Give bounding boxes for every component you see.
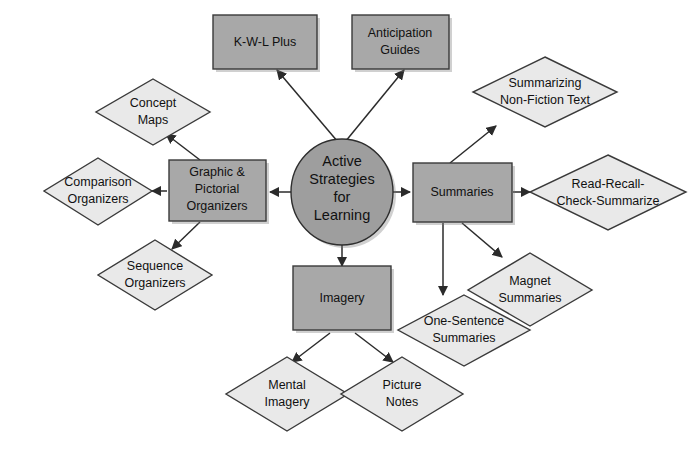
node-concept-maps-label-line-1: Maps (138, 113, 169, 127)
strategies-concept-map: K-W-L Plus Anticipation Guides Concept M… (0, 0, 700, 460)
edge-graphic-to-sequence (172, 222, 200, 249)
edge-summaries-to-summarizing-nonfiction (450, 126, 496, 163)
node-sequence-shape[interactable] (98, 240, 212, 310)
node-concept-maps[interactable]: Concept Maps (96, 79, 210, 145)
node-center-label-line-3: Learning (314, 207, 370, 223)
node-magnet-label-line-1: Summaries (498, 291, 561, 305)
edge-imagery-to-mental-imagery (292, 333, 330, 362)
node-graphic-label-line-1: Pictorial (195, 182, 239, 196)
diagram-canvas: K-W-L Plus Anticipation Guides Concept M… (0, 0, 700, 460)
edge-center-to-kwl (277, 70, 338, 142)
node-read-recall-shape[interactable] (530, 155, 686, 230)
node-sequence-label-line-1: Organizers (124, 276, 185, 290)
node-picture-notes-label-line-1: Notes (386, 395, 419, 409)
node-center-label-line-0: Active (322, 153, 362, 169)
node-picture-notes[interactable]: Picture Notes (341, 357, 463, 431)
node-mental-imagery-label-line-0: Mental (268, 378, 306, 392)
node-summarizing-nonfiction-shape[interactable] (473, 57, 617, 127)
node-graphic-label-line-2: Organizers (186, 199, 247, 213)
node-anticipation-label-line-1: Guides (380, 43, 420, 57)
edge-graphic-to-concept-maps (166, 134, 200, 160)
node-center-label-line-1: Strategies (309, 171, 374, 187)
node-mental-imagery[interactable]: Mental Imagery (226, 357, 348, 431)
edge-imagery-to-picture-notes (355, 333, 393, 362)
node-one-sentence-label-line-0: One-Sentence (424, 314, 505, 328)
node-concept-maps-shape[interactable] (96, 79, 210, 145)
node-graphic[interactable]: Graphic & Pictorial Organizers (169, 160, 266, 221)
node-read-recall[interactable]: Read-Recall- Check-Summarize (530, 155, 686, 230)
node-sequence[interactable]: Sequence Organizers (98, 240, 212, 310)
node-comparison-label-line-1: Organizers (67, 192, 128, 206)
node-anticipation-label-line-0: Anticipation (368, 26, 433, 40)
node-summarizing-nonfiction[interactable]: Summarizing Non-Fiction Text (473, 57, 617, 127)
node-anticipation-shape[interactable] (352, 15, 449, 69)
edge-center-to-anticipation (345, 70, 404, 142)
node-read-recall-label-line-0: Read-Recall- (572, 177, 645, 191)
node-summaries[interactable]: Summaries (413, 163, 512, 222)
node-imagery-label-line-0: Imagery (319, 291, 365, 305)
node-magnet-label-line-0: Magnet (509, 274, 551, 288)
node-center-label-line-2: for (334, 189, 351, 205)
node-center[interactable]: Active Strategies for Learning (291, 139, 393, 245)
node-comparison-label-line-0: Comparison (64, 175, 131, 189)
node-read-recall-label-line-1: Check-Summarize (557, 194, 660, 208)
node-summarizing-nonfiction-label-line-0: Summarizing (509, 76, 582, 90)
node-one-sentence-label-line-1: Summaries (432, 331, 495, 345)
node-summarizing-nonfiction-label-line-1: Non-Fiction Text (500, 93, 591, 107)
node-anticipation[interactable]: Anticipation Guides (352, 15, 449, 69)
node-sequence-label-line-0: Sequence (127, 259, 183, 273)
node-mental-imagery-shape[interactable] (226, 357, 348, 431)
node-kwl[interactable]: K-W-L Plus (213, 15, 317, 69)
node-comparison[interactable]: Comparison Organizers (44, 158, 152, 225)
node-picture-notes-label-line-0: Picture (383, 378, 422, 392)
node-graphic-label-line-0: Graphic & (189, 165, 245, 179)
node-kwl-label-line-0: K-W-L Plus (234, 35, 297, 49)
node-imagery[interactable]: Imagery (293, 266, 391, 330)
edge-summaries-to-magnet (462, 223, 502, 257)
node-concept-maps-label-line-0: Concept (130, 96, 177, 110)
node-picture-notes-shape[interactable] (341, 357, 463, 431)
node-mental-imagery-label-line-1: Imagery (264, 395, 310, 409)
node-summaries-label-line-0: Summaries (430, 185, 493, 199)
